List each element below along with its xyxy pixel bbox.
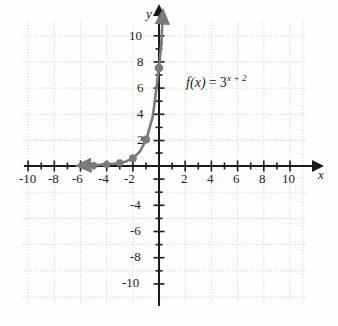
x-tick-label: -6: [72, 172, 83, 185]
function-label: f(x)=3x + 2: [186, 74, 247, 90]
coordinate-plane: [0, 0, 338, 326]
y-tick-label: -4: [130, 198, 141, 211]
x-tick-label: 8: [259, 172, 266, 185]
data-point: [155, 64, 164, 73]
x-tick-label: -4: [98, 172, 109, 185]
y-tick-label: 6: [137, 81, 144, 94]
x-tick-label: 6: [233, 172, 240, 185]
function-exponent: x + 2: [227, 73, 247, 83]
x-tick-label: 10: [282, 172, 295, 185]
data-point: [90, 162, 97, 169]
y-tick-label: 4: [137, 107, 144, 120]
function-curve: [101, 42, 162, 165]
y-tick-label: -6: [130, 224, 141, 237]
x-tick-label: 4: [207, 172, 214, 185]
y-tick-label: 10: [129, 29, 142, 42]
curve-up-arrow: [161, 22, 162, 46]
x-tick-label: 2: [181, 172, 188, 185]
x-axis-label: x: [318, 168, 324, 181]
data-point: [129, 154, 137, 162]
x-tick-label: -2: [124, 172, 135, 185]
equals-sign: =: [209, 75, 217, 90]
function-name: f(x): [186, 75, 206, 90]
data-point: [116, 159, 123, 166]
y-tick-label: 2: [137, 133, 144, 146]
function-base: 3: [220, 75, 227, 90]
x-tick-label: -8: [48, 172, 59, 185]
y-axis-label: y: [146, 7, 152, 20]
y-tick-label: 8: [137, 55, 144, 68]
data-point: [103, 161, 110, 168]
y-tick-label: -10: [122, 276, 139, 289]
x-tick-label: -10: [19, 172, 36, 185]
y-tick-label: -8: [130, 250, 141, 263]
graph-figure: -10 -8 -6 -4 -2 2 4 6 8 10 10 8 6 4 2 -4…: [0, 0, 338, 326]
grid-vertical: [28, 22, 303, 304]
